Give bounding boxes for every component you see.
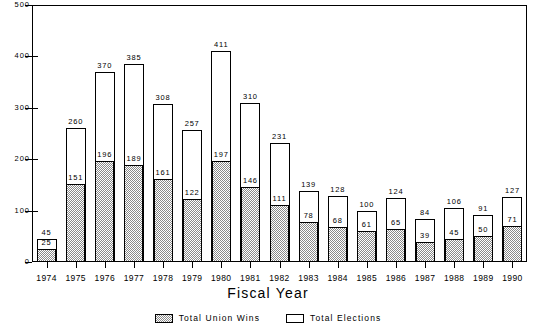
bar-group: [415, 219, 435, 262]
bar-group: [299, 191, 319, 262]
bar-union-wins: [416, 242, 435, 262]
bar-label-total-elections: 91: [467, 205, 499, 213]
bar-union-wins: [124, 165, 143, 262]
chart-legend: Total Union WinsTotal Elections: [0, 313, 536, 323]
x-axis-tick-mark: [280, 262, 281, 268]
bar-label-total-elections: 127: [496, 187, 528, 195]
x-axis-tick-label: 1985: [351, 273, 383, 283]
bar-label-union-wins: 71: [496, 216, 528, 224]
bar-group: [502, 197, 522, 262]
bar-label-total-elections: 139: [293, 181, 325, 189]
x-axis-tick-label: 1976: [89, 273, 121, 283]
bar-group: [153, 104, 173, 262]
x-axis-tick-mark: [367, 262, 368, 268]
x-axis-tick-label: 1979: [176, 273, 208, 283]
x-axis-tick-mark: [250, 262, 251, 268]
bar-label-union-wins: 39: [409, 232, 441, 240]
x-axis-tick-mark: [396, 262, 397, 268]
legend-label: Total Union Wins: [179, 313, 260, 323]
bar-label-total-elections: 370: [89, 62, 121, 70]
x-axis-tick-mark: [163, 262, 164, 268]
bar-label-total-elections: 385: [118, 54, 150, 62]
bar-label-union-wins: 196: [89, 151, 121, 159]
bar-group: [66, 128, 86, 262]
x-axis-title: Fiscal Year: [0, 285, 536, 301]
bar-label-total-elections: 310: [234, 93, 266, 101]
bar-label-union-wins: 68: [322, 217, 354, 225]
bar-label-union-wins: 197: [205, 151, 237, 159]
bar-group: [95, 72, 115, 262]
x-axis-tick-mark: [309, 262, 310, 268]
bar-label-union-wins: 146: [234, 177, 266, 185]
bars-layer: 4525197426015119753701961976385189197730…: [0, 0, 536, 327]
bar-group: [473, 215, 493, 262]
x-axis-tick-label: 1983: [293, 273, 325, 283]
x-axis-tick-mark: [134, 262, 135, 268]
bar-union-wins: [212, 161, 231, 262]
bar-label-total-elections: 231: [264, 133, 296, 141]
bar-label-total-elections: 106: [438, 198, 470, 206]
legend-item: Total Union Wins: [155, 313, 260, 323]
x-axis-tick-label: 1989: [467, 273, 499, 283]
x-axis-tick-label: 1990: [496, 273, 528, 283]
bar-label-total-elections: 45: [31, 229, 63, 237]
bar-label-total-elections: 100: [351, 201, 383, 209]
bar-union-wins: [474, 236, 493, 262]
bar-union-wins: [503, 226, 522, 262]
bar-union-wins: [241, 187, 260, 262]
x-axis-tick-label: 1982: [264, 273, 296, 283]
x-axis-tick-mark: [47, 262, 48, 268]
x-axis-tick-label: 1978: [147, 273, 179, 283]
bar-group: [328, 196, 348, 262]
bar-union-wins: [183, 199, 202, 262]
bar-union-wins: [66, 184, 85, 262]
x-axis-tick-label: 1984: [322, 273, 354, 283]
bar-label-union-wins: 78: [293, 212, 325, 220]
bar-union-wins: [299, 222, 318, 262]
bar-union-wins: [328, 227, 347, 262]
bar-union-wins: [37, 249, 56, 262]
bar-label-union-wins: 122: [176, 189, 208, 197]
bar-label-total-elections: 128: [322, 186, 354, 194]
bar-label-total-elections: 308: [147, 94, 179, 102]
bar-union-wins: [154, 179, 173, 262]
bar-label-total-elections: 257: [176, 120, 208, 128]
bar-label-union-wins: 50: [467, 226, 499, 234]
bar-label-total-elections: 124: [380, 188, 412, 196]
x-axis-tick-label: 1977: [118, 273, 150, 283]
x-axis-tick-mark: [76, 262, 77, 268]
bar-label-union-wins: 151: [60, 174, 92, 182]
bar-group: [357, 211, 377, 262]
x-axis-tick-mark: [454, 262, 455, 268]
x-axis-tick-label: 1980: [205, 273, 237, 283]
bar-label-union-wins: 61: [351, 221, 383, 229]
bar-label-union-wins: 111: [264, 195, 296, 203]
x-axis-tick-mark: [512, 262, 513, 268]
x-axis-tick-label: 1987: [409, 273, 441, 283]
bar-label-total-elections: 84: [409, 209, 441, 217]
x-axis-tick-label: 1981: [234, 273, 266, 283]
bar-label-union-wins: 25: [31, 239, 63, 247]
x-axis-tick-mark: [425, 262, 426, 268]
x-axis-tick-label: 1974: [31, 273, 63, 283]
bar-label-total-elections: 260: [60, 118, 92, 126]
bar-group: [386, 198, 406, 262]
legend-label: Total Elections: [310, 313, 381, 323]
legend-swatch-hatched: [155, 314, 173, 323]
bar-chart: 0100200300400500 45251974260151197537019…: [0, 0, 536, 327]
bar-union-wins: [386, 229, 405, 262]
bar-group: [124, 64, 144, 262]
x-axis-tick-mark: [105, 262, 106, 268]
bar-label-union-wins: 45: [438, 229, 470, 237]
bar-union-wins: [95, 161, 114, 262]
x-axis-tick-mark: [338, 262, 339, 268]
legend-item: Total Elections: [286, 313, 381, 323]
legend-swatch-white: [286, 314, 304, 323]
bar-union-wins: [270, 205, 289, 262]
x-axis-tick-label: 1988: [438, 273, 470, 283]
bar-union-wins: [357, 231, 376, 262]
x-axis-tick-mark: [221, 262, 222, 268]
x-axis-tick-label: 1986: [380, 273, 412, 283]
x-axis-tick-mark: [192, 262, 193, 268]
x-axis-tick-mark: [483, 262, 484, 268]
